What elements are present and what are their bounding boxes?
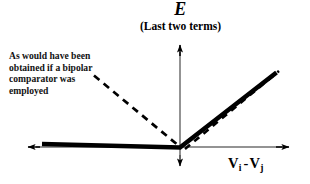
x-axis-label-v-i: V <box>228 155 239 171</box>
annotation-line-2: obtained if a bipolar <box>9 62 117 74</box>
annotation-line-3: comparator was <box>9 73 117 85</box>
annotation-line-1: As would have been <box>9 50 117 62</box>
annotation-text-block: As would have been obtained if a bipolar… <box>9 50 117 96</box>
y-axis-label-sublabel: (Last two terms) <box>113 20 248 32</box>
figure-canvas: E (Last two terms) Vi-Vj As would have b… <box>0 0 310 184</box>
annotation-line-4: employed <box>9 85 117 97</box>
y-axis-label-symbol: E <box>113 0 248 19</box>
y-axis-label-group: E (Last two terms) <box>113 0 248 32</box>
x-axis-label-minus: - <box>243 155 248 171</box>
x-axis-label-v-j: V <box>250 155 261 171</box>
x-axis-label-subscript-i: i <box>239 163 242 173</box>
x-axis-label-subscript-j: j <box>260 163 263 173</box>
x-axis-label: Vi-Vj <box>228 155 264 172</box>
